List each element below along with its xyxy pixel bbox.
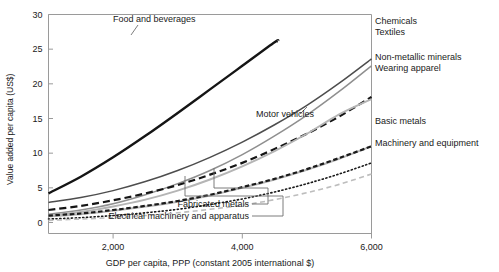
series-labels-group: Food and beveragesChemicalsTextilesNon-m…: [108, 14, 479, 221]
series-label: Machinery and equipment: [375, 138, 479, 148]
series-label: Wearing apparel: [375, 63, 441, 73]
series-label: Electrical machinery and apparatus: [108, 211, 249, 221]
y-tick-label: 30: [32, 10, 42, 20]
y-tick-label: 5: [37, 183, 42, 193]
series-label: Basic metals: [375, 116, 427, 126]
x-tick-label: 2,000: [102, 242, 125, 252]
value-added-per-capita-line-chart: Value added per capita (US$) 05101520253…: [0, 0, 499, 272]
series-label: Textiles: [375, 27, 406, 37]
data-series-group: [49, 40, 372, 220]
series-line: [49, 40, 279, 193]
series-label: Fabricated metals: [177, 199, 249, 209]
chart-container: Value added per capita (US$) 05101520253…: [0, 0, 499, 272]
x-tick-label: 6,000: [360, 242, 383, 252]
leader-line: [131, 25, 138, 35]
x-axis-title: GDP per capita, PPP (constant 2005 inter…: [106, 258, 314, 268]
y-tick-label: 15: [32, 114, 42, 124]
series-label: Non-metallic minerals: [375, 52, 462, 62]
y-tick-label: 0: [37, 218, 42, 228]
series-label: Motor vehicles: [256, 109, 315, 119]
series-label: Chemicals: [375, 16, 418, 26]
y-axis-title: Value added per capita (US$): [5, 73, 15, 185]
y-axis-tick-labels: 051015202530: [32, 10, 42, 228]
series-line: [49, 97, 372, 210]
series-label: Food and beverages: [113, 14, 196, 24]
x-axis-tick-labels: 2,0004,0006,000: [102, 242, 383, 252]
y-tick-label: 25: [32, 44, 42, 54]
y-tick-label: 10: [32, 148, 42, 158]
series-line: [49, 59, 372, 203]
x-tick-label: 4,000: [231, 242, 254, 252]
y-tick-label: 20: [32, 79, 42, 89]
